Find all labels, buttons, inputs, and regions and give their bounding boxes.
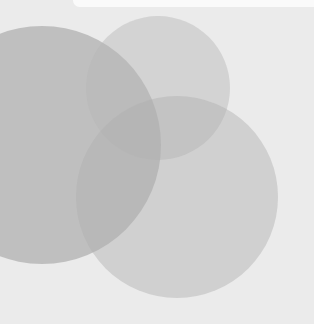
circles-graphic	[0, 0, 314, 324]
abstract-circles-artwork	[0, 0, 314, 324]
bottom-right-circle	[76, 96, 278, 298]
